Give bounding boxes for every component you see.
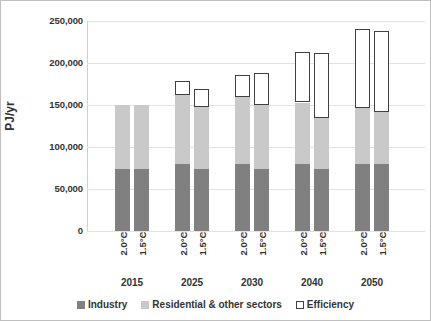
x-axis-tickmark xyxy=(123,232,124,236)
x-axis-group-label: 2050 xyxy=(342,277,402,288)
bar-segment-efficiency xyxy=(355,29,370,108)
x-axis-scenario-tick: 2.0°C xyxy=(295,234,310,274)
x-axis-scenario-tick: 2.0°C xyxy=(355,234,370,274)
bar-segment-residential xyxy=(134,105,149,169)
x-axis-scenario-label: 2.0°C xyxy=(238,222,249,266)
bar-segment-efficiency xyxy=(314,53,329,118)
y-axis-tick-label: 50,000 xyxy=(23,184,83,194)
y-axis-line xyxy=(87,21,88,232)
x-axis-scenario-label: 1.5°C xyxy=(197,222,208,266)
x-axis-scenario-tick: 1.5°C xyxy=(374,234,389,274)
x-axis-scenario-label: 2.0°C xyxy=(298,222,309,266)
bar-segment-residential xyxy=(235,97,250,164)
y-axis-tick-label: 150,000 xyxy=(23,100,83,110)
legend-item[interactable]: Efficiency xyxy=(296,299,354,310)
y-axis-tick-label: 200,000 xyxy=(23,58,83,68)
bar-segment-residential xyxy=(175,95,190,164)
bar-segment-efficiency xyxy=(175,81,190,95)
x-axis-scenario-tick: 1.5°C xyxy=(134,234,149,274)
legend-label: Industry xyxy=(88,299,127,310)
bar-segment-residential xyxy=(194,107,209,169)
bar-segment-residential xyxy=(355,108,370,163)
bar-segment-efficiency xyxy=(194,89,209,107)
gridline xyxy=(87,21,425,22)
bar-chart: 050,000100,000150,000200,000250,000 PJ/y… xyxy=(0,0,431,321)
x-axis-group-label: 2030 xyxy=(222,277,282,288)
x-axis-group-label: 2015 xyxy=(102,277,162,288)
x-axis-scenario-tick: 1.5°C xyxy=(254,234,269,274)
y-axis-labels: 050,000100,000150,000200,000250,000 xyxy=(15,1,83,321)
plot-area xyxy=(87,21,425,231)
y-axis-title: PJ/yr xyxy=(3,101,17,130)
bar-segment-residential xyxy=(254,105,269,169)
x-axis-tickmark xyxy=(183,232,184,236)
x-axis-tickmark xyxy=(363,232,364,236)
x-axis-tickmark xyxy=(322,232,323,236)
x-axis-scenario-tick: 1.5°C xyxy=(194,234,209,274)
x-axis-scenario-label: 2.0°C xyxy=(358,222,369,266)
x-axis-tickmark xyxy=(142,232,143,236)
chart-legend: IndustryResidential & other sectorsEffic… xyxy=(1,299,430,310)
bar-segment-efficiency xyxy=(374,31,389,112)
x-axis-scenario-tick: 1.5°C xyxy=(314,234,329,274)
x-axis-scenario-label: 1.5°C xyxy=(257,222,268,266)
y-axis-tick-label: 250,000 xyxy=(23,16,83,26)
x-axis-tickmark xyxy=(382,232,383,236)
bar-segment-residential xyxy=(115,105,130,169)
x-axis-group-label: 2025 xyxy=(162,277,222,288)
x-axis-scenario-label: 2.0°C xyxy=(118,222,129,266)
x-axis-scenario-tick: 2.0°C xyxy=(175,234,190,274)
legend-label: Residential & other sectors xyxy=(152,299,281,310)
legend-swatch-icon xyxy=(77,301,85,309)
x-axis-scenario-label: 2.0°C xyxy=(178,222,189,266)
x-axis-tickmark xyxy=(202,232,203,236)
bar-segment-efficiency xyxy=(235,75,250,97)
x-axis-scenario-tick: 2.0°C xyxy=(235,234,250,274)
legend-swatch-icon xyxy=(296,301,304,309)
bar-segment-residential xyxy=(295,103,310,164)
legend-label: Efficiency xyxy=(307,299,354,310)
bar-segment-efficiency xyxy=(254,73,269,105)
y-axis-tick-label: 0 xyxy=(23,226,83,236)
x-axis-tickmark xyxy=(303,232,304,236)
legend-item[interactable]: Industry xyxy=(77,299,127,310)
y-axis-tick-label: 100,000 xyxy=(23,142,83,152)
x-axis-group-label: 2040 xyxy=(282,277,342,288)
bar-segment-residential xyxy=(374,112,389,164)
legend-swatch-icon xyxy=(141,301,149,309)
bar-segment-efficiency xyxy=(295,52,310,102)
legend-item[interactable]: Residential & other sectors xyxy=(141,299,281,310)
x-axis-scenario-label: 1.5°C xyxy=(317,222,328,266)
x-axis-tickmark xyxy=(243,232,244,236)
x-axis-scenario-tick: 2.0°C xyxy=(115,234,130,274)
bar-segment-residential xyxy=(314,118,329,169)
x-axis-scenario-label: 1.5°C xyxy=(137,222,148,266)
x-axis-tickmark xyxy=(262,232,263,236)
x-axis-scenario-label: 1.5°C xyxy=(377,222,388,266)
